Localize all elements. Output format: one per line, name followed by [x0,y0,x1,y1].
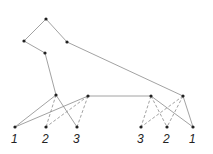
node-hub-b [86,94,89,97]
leaf-label-right-3: 3 [137,132,144,146]
node-mid [43,51,46,54]
edge-hub-d-leaf-r2 [167,96,183,127]
node-leaf-r2 [165,125,168,128]
edge-hub-a-leaf-l1 [15,95,56,127]
leaf-label-left-2: 2 [41,132,49,146]
edge-hub-c-leaf-r3 [141,96,151,127]
edge-mid-hub-a [45,53,56,95]
edges-group [15,19,193,127]
edge-left-mid [24,41,45,53]
leaf-labels-group: 1 2 3 3 2 1 [11,132,196,146]
nodes-group [13,17,194,128]
node-top [44,17,47,20]
node-leaf-r3 [139,125,142,128]
node-hub-a [54,93,57,96]
node-leaf-l3 [75,125,78,128]
tree-diagram: 1 2 3 3 2 1 [0,0,213,154]
node-hub-d [181,94,184,97]
edge-hub-b-leaf-l3 [77,96,88,127]
edge-hub-a-leaf-l2 [46,95,56,127]
node-hub-c [149,94,152,97]
edge-hub-d-leaf-r3 [141,96,183,127]
edge-hub-c-leaf-r1 [151,96,193,127]
node-leaf-r1 [191,125,194,128]
edge-hub-c-leaf-r2 [151,96,167,127]
edge-upper-right-hub-d [67,42,183,96]
node-leaf-l2 [44,125,47,128]
node-left [22,39,25,42]
edge-top-upper-right [46,19,67,42]
node-upper-right [65,40,68,43]
edge-hub-d-leaf-r1 [183,96,193,127]
leaf-label-left-1: 1 [11,132,18,146]
leaf-label-right-1: 1 [189,132,196,146]
leaf-label-right-2: 2 [162,132,170,146]
edge-hub-a-leaf-l3 [56,95,77,127]
node-leaf-l1 [13,125,16,128]
edge-top-left [24,19,46,41]
leaf-label-left-3: 3 [73,132,80,146]
edge-hub-b-leaf-l1 [15,96,88,127]
